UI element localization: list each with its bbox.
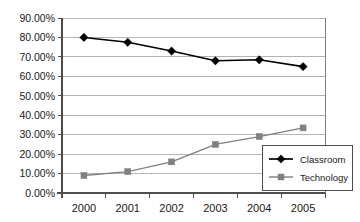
data-point-marker: [167, 47, 175, 55]
y-axis-tick-label: 0.00%: [25, 187, 55, 199]
data-point-marker: [299, 63, 307, 71]
y-axis-tick-label: 40.00%: [19, 109, 55, 121]
x-axis-tick-label: 2005: [291, 202, 315, 214]
data-point-marker: [124, 38, 132, 46]
legend-label-classroom: Classroom: [300, 154, 345, 165]
legend-box: [262, 145, 352, 190]
line-chart: 0.00%10.00%20.00%30.00%40.00%50.00%60.00…: [0, 0, 360, 222]
x-axis-tick-label: 2001: [116, 202, 140, 214]
x-axis-tick-label: 2003: [203, 202, 227, 214]
y-axis-tick-label: 60.00%: [19, 70, 55, 82]
y-axis-tick-label: 70.00%: [19, 51, 55, 63]
y-axis-tick-label: 20.00%: [19, 148, 55, 160]
data-point-marker: [300, 125, 306, 131]
chart-canvas: 0.00%10.00%20.00%30.00%40.00%50.00%60.00…: [0, 0, 360, 222]
data-point-marker: [278, 174, 284, 180]
y-axis-tick-label: 90.00%: [19, 12, 55, 24]
data-point-marker: [256, 134, 262, 140]
x-axis-tick-label: 2002: [159, 202, 183, 214]
data-point-marker: [169, 159, 175, 165]
data-point-marker: [212, 141, 218, 147]
x-axis-tick-label: 2004: [247, 202, 271, 214]
y-axis-tick-label: 80.00%: [19, 31, 55, 43]
data-point-marker: [125, 169, 131, 175]
y-axis-tick-label: 10.00%: [19, 167, 55, 179]
legend-label-technology: Technology: [300, 172, 348, 183]
y-axis-tick-label: 50.00%: [19, 90, 55, 102]
series-line-classroom: [84, 37, 303, 66]
data-point-marker: [81, 173, 87, 179]
x-axis-tick-label: 2000: [72, 202, 96, 214]
y-axis-tick-label: 30.00%: [19, 128, 55, 140]
data-point-marker: [211, 57, 219, 65]
data-point-marker: [80, 33, 88, 41]
